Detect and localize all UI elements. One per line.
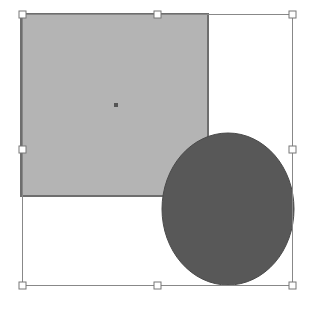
resize-handle-top-middle[interactable] [154,11,161,18]
resize-handle-middle-right[interactable] [289,146,296,153]
dark-ellipse-shape[interactable] [162,133,294,285]
rectangle-center-point [114,103,118,107]
resize-handle-bottom-left[interactable] [19,282,26,289]
drawing-canvas[interactable] [0,0,317,313]
resize-handle-bottom-middle[interactable] [154,282,161,289]
resize-handle-middle-left[interactable] [19,146,26,153]
resize-handle-top-left[interactable] [19,11,26,18]
resize-handle-bottom-right[interactable] [289,282,296,289]
resize-handle-top-right[interactable] [289,11,296,18]
